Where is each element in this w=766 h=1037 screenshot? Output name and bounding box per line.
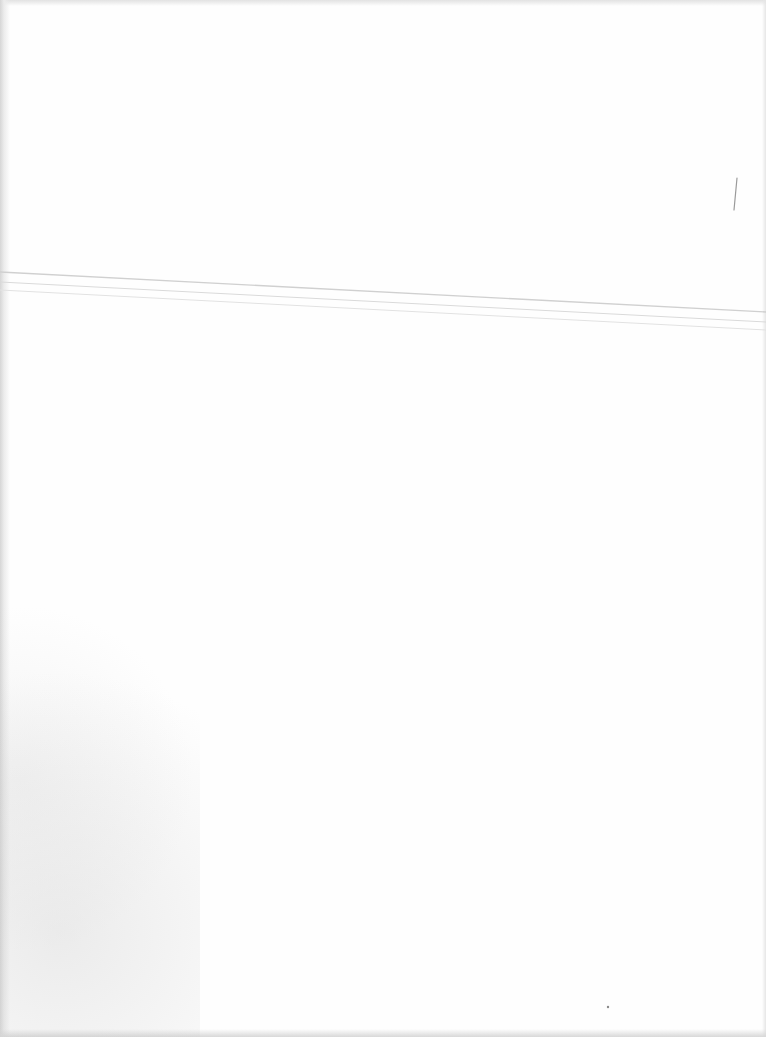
paper-scratch-mark	[734, 178, 737, 210]
fold-line	[0, 290, 766, 330]
paper-fold-crease	[0, 0, 766, 1037]
blank-scanned-page	[0, 0, 766, 1037]
fold-line	[0, 272, 766, 312]
paper-speck	[607, 1006, 609, 1008]
fold-line	[0, 282, 766, 322]
